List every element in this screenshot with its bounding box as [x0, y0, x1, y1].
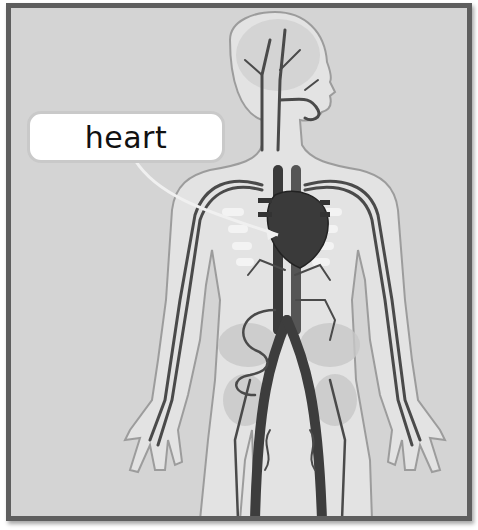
diagram-frame: heart	[6, 3, 472, 521]
heart-label-text: heart	[85, 120, 167, 155]
diagram-panel: heart	[11, 8, 467, 516]
circulatory-system-illustration	[11, 8, 467, 516]
brain	[236, 19, 320, 91]
heart-label-box: heart	[27, 111, 225, 163]
